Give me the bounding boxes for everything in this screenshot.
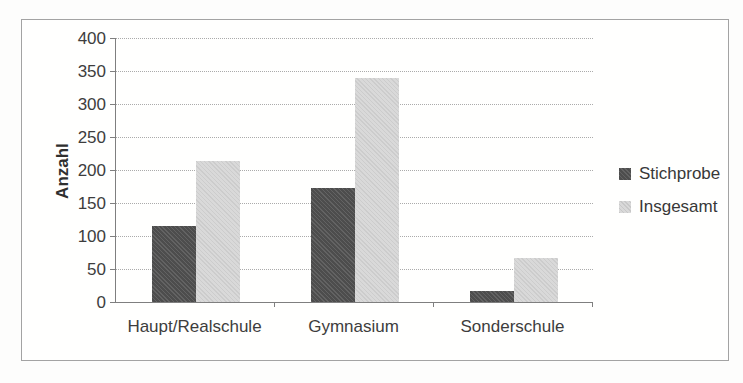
y-tick-label: 300 bbox=[42, 96, 106, 113]
y-tick-mark bbox=[110, 203, 115, 204]
y-tick-label: 50 bbox=[42, 261, 106, 278]
legend-swatch-insgesamt bbox=[619, 201, 631, 213]
bar-s0-c2 bbox=[470, 291, 514, 302]
y-tick-label: 100 bbox=[42, 228, 106, 245]
y-tick-label: 0 bbox=[42, 294, 106, 311]
bar-s1-c2 bbox=[514, 258, 558, 302]
category-label: Sonderschule bbox=[433, 317, 592, 337]
y-gridline bbox=[116, 38, 593, 39]
x-tick-mark bbox=[433, 302, 434, 307]
y-tick-label: 150 bbox=[42, 195, 106, 212]
legend-swatch-stichprobe bbox=[619, 168, 631, 180]
y-gridline bbox=[116, 71, 593, 72]
y-tick-mark bbox=[110, 38, 115, 39]
y-tick-mark bbox=[110, 104, 115, 105]
y-tick-mark bbox=[110, 269, 115, 270]
legend: StichprobeInsgesamt bbox=[619, 164, 720, 217]
legend-label: Insgesamt bbox=[639, 197, 717, 217]
category-label: Haupt/Realschule bbox=[115, 317, 274, 337]
bar-s0-c0 bbox=[152, 226, 196, 302]
plot-area bbox=[115, 38, 593, 303]
legend-label: Stichprobe bbox=[639, 164, 720, 184]
x-tick-mark bbox=[274, 302, 275, 307]
chart-canvas: Anzahl StichprobeInsgesamt 0501001502002… bbox=[0, 0, 743, 383]
legend-item: Stichprobe bbox=[619, 164, 720, 184]
y-tick-mark bbox=[110, 71, 115, 72]
chart-frame: Anzahl StichprobeInsgesamt 0501001502002… bbox=[21, 19, 729, 361]
bar-s1-c1 bbox=[355, 78, 399, 302]
y-tick-label: 350 bbox=[42, 63, 106, 80]
bar-s1-c0 bbox=[196, 161, 240, 302]
y-tick-label: 400 bbox=[42, 30, 106, 47]
y-tick-mark bbox=[110, 170, 115, 171]
y-tick-label: 250 bbox=[42, 129, 106, 146]
y-tick-mark bbox=[110, 236, 115, 237]
y-tick-mark bbox=[110, 137, 115, 138]
y-tick-label: 200 bbox=[42, 162, 106, 179]
y-tick-mark bbox=[110, 302, 115, 303]
bar-s0-c1 bbox=[311, 188, 355, 302]
x-tick-mark bbox=[592, 302, 593, 307]
legend-item: Insgesamt bbox=[619, 197, 720, 217]
category-label: Gymnasium bbox=[274, 317, 433, 337]
